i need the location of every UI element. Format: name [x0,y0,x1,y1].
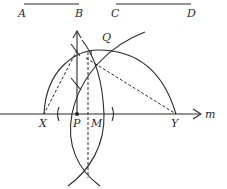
label-m-point: M [90,117,103,130]
point-p-dot [75,112,79,116]
label-q: Q [102,31,111,44]
dashed-line-to-y [86,58,176,114]
arc-mark-cross-2 [71,44,80,56]
label-line-m: m [205,108,215,121]
label-d: D [186,7,196,20]
geometry-construction-diagram: A B C D Q X P M Y m [0,0,227,189]
arc-xy [44,50,176,114]
label-b: B [74,7,83,20]
arc-mark-cross-1 [71,78,81,90]
label-a: A [17,7,26,20]
label-x: X [38,117,48,130]
label-p: P [72,117,81,130]
arc-right-lens [68,40,104,186]
dashed-line-to-x [44,50,77,114]
arc-left-lens [70,32,145,186]
label-c: C [111,7,120,20]
label-y: Y [171,117,180,130]
